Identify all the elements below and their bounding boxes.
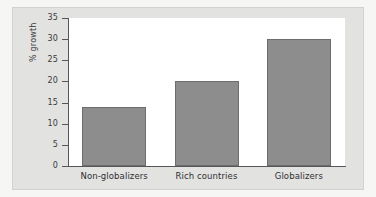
y-axis-line [68, 18, 69, 167]
y-tick-label: 0 [32, 162, 58, 170]
y-tick-mark [62, 145, 68, 146]
y-tick-label: 10 [32, 120, 58, 128]
x-axis-category-label: Rich countries [160, 171, 252, 181]
y-tick-mark [62, 60, 68, 61]
y-tick-label: 5 [32, 141, 58, 149]
bar [175, 81, 239, 166]
y-tick-label: 15 [32, 99, 58, 107]
y-tick-mark [62, 166, 68, 167]
y-tick-mark [62, 124, 68, 125]
y-tick-label: 25 [32, 56, 58, 64]
y-tick-mark [62, 103, 68, 104]
x-axis-category-label: Globalizers [253, 171, 345, 181]
x-axis-category-label: Non-globalizers [68, 171, 160, 181]
y-tick-label: 20 [32, 77, 58, 85]
y-tick-label: 35 [32, 14, 58, 22]
x-axis-line [68, 166, 346, 167]
y-tick-mark [62, 81, 68, 82]
bar-chart-figure: % growth 05101520253035 Non-globalizersR… [0, 0, 376, 197]
y-axis-title: % growth [29, 2, 38, 62]
y-tick-mark [62, 39, 68, 40]
bar [82, 107, 146, 166]
y-tick-label: 30 [32, 35, 58, 43]
bar [267, 39, 331, 166]
y-tick-mark [62, 18, 68, 19]
